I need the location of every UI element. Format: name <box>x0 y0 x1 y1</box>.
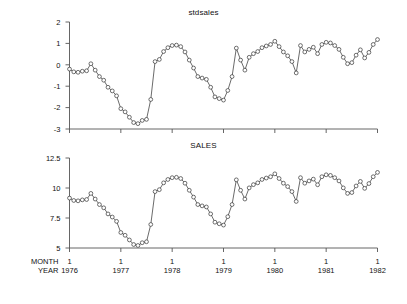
data-point <box>358 180 362 184</box>
data-point <box>196 203 200 207</box>
data-point <box>226 89 230 93</box>
y-tick-label: 5 <box>56 244 60 253</box>
data-point <box>324 40 328 44</box>
data-point <box>247 55 251 59</box>
data-point <box>337 47 341 51</box>
data-point <box>68 67 72 71</box>
data-point <box>102 206 106 210</box>
data-point <box>333 176 337 180</box>
x-tick-month-label: 1 <box>170 257 174 266</box>
data-point <box>196 75 200 79</box>
data-point <box>299 176 303 180</box>
data-point <box>371 43 375 47</box>
data-point <box>273 172 277 176</box>
data-point <box>170 44 174 48</box>
data-point <box>115 94 119 98</box>
data-point <box>175 175 179 179</box>
x-tick-month-label: 1 <box>273 257 277 266</box>
data-point <box>110 215 114 219</box>
y-tick-label: -2 <box>54 103 61 112</box>
data-point <box>204 77 208 81</box>
x-tick-month-label: 1 <box>324 257 328 266</box>
data-point <box>149 223 153 227</box>
x-tick-month-label: 1 <box>221 257 225 266</box>
data-point <box>153 60 157 64</box>
data-point <box>256 181 260 185</box>
data-point <box>93 197 97 201</box>
y-tick-label: 10 <box>52 184 60 193</box>
data-point <box>192 66 196 70</box>
panel-sales: SALES 12.5107.55119761197711978119791198… <box>0 138 407 304</box>
data-point <box>252 183 256 187</box>
data-point <box>230 203 234 207</box>
data-point <box>337 179 341 183</box>
data-point <box>294 71 298 75</box>
data-point <box>183 181 187 185</box>
data-point <box>286 54 290 58</box>
y-tick-label: 2 <box>56 18 60 27</box>
data-point <box>367 182 371 186</box>
data-point <box>367 50 371 54</box>
data-point <box>243 68 247 72</box>
data-point <box>102 78 106 82</box>
data-point <box>290 190 294 194</box>
data-point <box>119 107 123 111</box>
data-point <box>213 95 217 99</box>
data-point <box>303 50 307 54</box>
series-line <box>70 172 378 245</box>
data-point <box>311 177 315 181</box>
data-point <box>350 191 354 195</box>
data-point <box>316 52 320 56</box>
data-point <box>346 62 350 66</box>
data-point <box>281 50 285 54</box>
data-point <box>110 89 114 93</box>
data-point <box>115 219 119 223</box>
data-point <box>72 199 76 203</box>
x-tick-year-label: 1978 <box>164 266 181 275</box>
y-tick-label: -1 <box>54 82 61 91</box>
data-point <box>98 203 102 207</box>
data-point <box>85 198 89 202</box>
data-point <box>376 38 380 42</box>
data-point <box>166 178 170 182</box>
data-point <box>80 198 84 202</box>
data-point <box>333 44 337 48</box>
data-point <box>140 119 144 123</box>
data-point <box>294 200 298 204</box>
data-point <box>140 241 144 245</box>
data-point <box>252 52 256 56</box>
data-point <box>243 197 247 201</box>
y-tick-label: 12.5 <box>46 154 61 163</box>
x-tick-month-label: 1 <box>375 257 379 266</box>
data-point <box>290 60 294 64</box>
data-point <box>247 186 251 190</box>
x-tick-year-label: 1982 <box>369 266 386 275</box>
data-point <box>200 204 204 208</box>
data-point <box>354 184 358 188</box>
data-point <box>307 47 311 51</box>
data-point <box>307 179 311 183</box>
data-point <box>222 98 226 102</box>
data-point <box>204 205 208 209</box>
data-point <box>80 69 84 73</box>
data-point <box>316 183 320 187</box>
figure-root: stdsales 210-1-2-3 SALES 12.5107.5511976… <box>0 0 407 304</box>
data-point <box>119 231 123 235</box>
data-point <box>269 43 273 47</box>
data-point <box>68 196 72 200</box>
data-point <box>132 121 136 125</box>
data-point <box>341 55 345 59</box>
y-tick-label: 1 <box>56 39 60 48</box>
data-point <box>226 215 230 219</box>
data-point <box>346 192 350 196</box>
panel-stdsales: stdsales 210-1-2-3 <box>0 0 407 150</box>
data-point <box>324 173 328 177</box>
data-point <box>136 244 140 248</box>
x-tick-month-label: 1 <box>119 257 123 266</box>
data-point <box>230 75 234 79</box>
data-point <box>127 115 131 119</box>
data-point <box>153 190 157 194</box>
data-point <box>320 43 324 47</box>
data-point <box>277 45 281 49</box>
data-point <box>162 181 166 185</box>
